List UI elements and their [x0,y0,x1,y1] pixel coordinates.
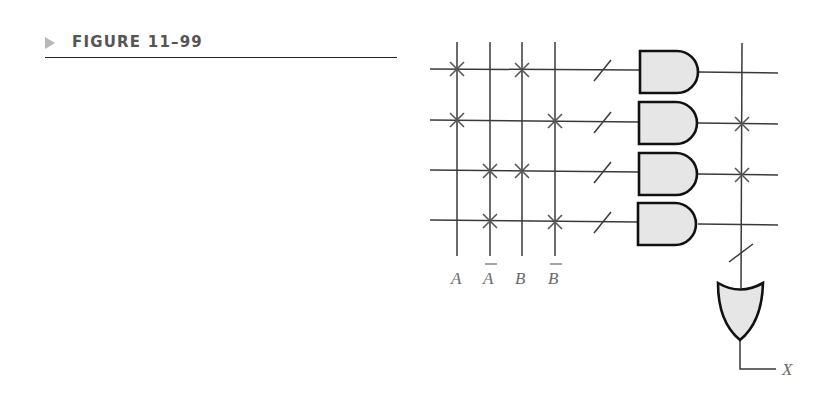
or-input-line [741,43,742,288]
and-output-2 [698,123,778,124]
and-gate-3 [639,153,697,195]
and-gate-1 [640,51,698,93]
output-wire [740,338,776,369]
product-line-3 [430,170,639,172]
label-b: B [515,269,526,288]
bus-slash-3 [594,162,611,183]
and-output-3 [698,174,778,175]
output-label-x: X [781,360,793,379]
and-gate-4 [638,203,696,245]
label-a-not: A [482,269,494,288]
product-line-1 [430,69,639,70]
and-output-1 [698,72,778,73]
bus-slash-4 [594,212,611,233]
product-line-2 [430,120,639,122]
or-gate [718,283,763,340]
pld-circuit-diagram: A A B B X [0,0,840,393]
and-gate-2 [639,102,697,144]
product-line-4 [430,220,639,222]
label-a: A [450,269,462,288]
and-output-4 [698,224,778,225]
label-b-not: B [548,269,559,288]
bus-slash-2 [594,112,611,133]
